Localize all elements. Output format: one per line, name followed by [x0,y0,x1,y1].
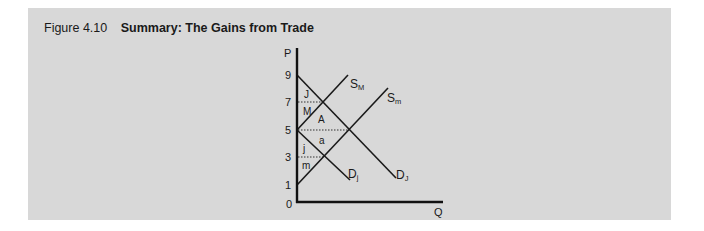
region-m-label: m [302,160,310,171]
demand-curve-J [297,75,396,178]
y-axis-label: P [284,47,291,59]
demand-J-label: DJ [396,168,409,183]
region-a-label: a [319,135,325,146]
x-axis-label: Q [434,206,443,218]
region-J-label: J [304,89,309,100]
demand-j-label: Dj [348,167,359,182]
y-tick-5: 5 [285,124,291,136]
region-j-label: j [302,143,305,154]
y-tick-3: 3 [285,151,291,163]
region-M-label: M [303,106,311,117]
supply-curve-m [297,88,388,185]
supply-M-label: SM [350,77,364,92]
y-tick-9: 9 [285,69,291,81]
y-tick-7: 7 [285,96,291,108]
origin-label: 0 [286,198,292,210]
y-tick-1: 1 [285,179,291,191]
region-A-label: A [318,114,325,125]
supply-m-label: Sm [387,91,401,106]
trade-gains-diagram: P Q 0 9 7 5 3 1 SM Sm DJ Dj J M A a j m [0,0,704,231]
